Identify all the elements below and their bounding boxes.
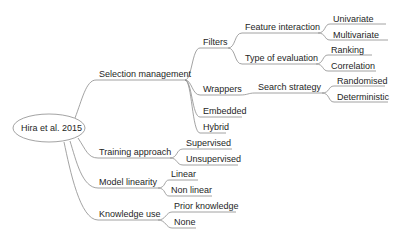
- node-correlation[interactable]: Correlation: [331, 61, 375, 71]
- root-node[interactable]: Hira et al. 2015: [21, 123, 82, 133]
- node-univariate[interactable]: Univariate: [333, 14, 374, 24]
- node-feature-interaction[interactable]: Feature interaction: [245, 22, 320, 32]
- node-training-approach[interactable]: Training approach: [99, 147, 171, 157]
- node-none[interactable]: None: [174, 217, 196, 227]
- node-selection-management[interactable]: Selection management: [99, 69, 191, 79]
- node-knowledge-use[interactable]: Knowledge use: [99, 209, 161, 219]
- node-search-strategy[interactable]: Search strategy: [258, 82, 321, 92]
- node-prior-knowledge[interactable]: Prior knowledge: [174, 201, 239, 211]
- node-hybrid[interactable]: Hybrid: [203, 122, 229, 132]
- node-multivariate[interactable]: Multivariate: [333, 30, 379, 40]
- node-deterministic[interactable]: Deterministic: [337, 92, 389, 102]
- node-embedded[interactable]: Embedded: [203, 106, 247, 116]
- node-randomised[interactable]: Randomised: [337, 76, 388, 86]
- node-unsupervised[interactable]: Unsupervised: [186, 154, 241, 164]
- node-ranking[interactable]: Ranking: [331, 45, 364, 55]
- node-supervised[interactable]: Supervised: [186, 138, 231, 148]
- node-non-linear[interactable]: Non linear: [171, 185, 212, 195]
- node-filters[interactable]: Filters: [203, 37, 228, 47]
- node-linear[interactable]: Linear: [171, 169, 196, 179]
- node-model-linearity[interactable]: Model linearity: [99, 177, 157, 187]
- node-type-of-evaluation[interactable]: Type of evaluation: [245, 53, 318, 63]
- node-wrappers[interactable]: Wrappers: [203, 84, 242, 94]
